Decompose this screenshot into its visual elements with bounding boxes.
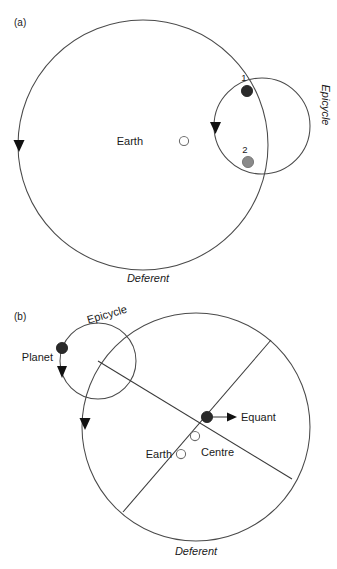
panel-b-equant-pointer-arrow bbox=[227, 413, 237, 422]
panel-b-earth-label: Earth bbox=[146, 448, 172, 460]
panel-a: (a) Earth 1 2 Epicycle Deferent bbox=[14, 17, 333, 284]
panel-b-deferent-label: Deferent bbox=[175, 545, 218, 557]
panel-b: (b) Planet Epicycle Equant bbox=[14, 303, 310, 557]
panel-b-earth-marker bbox=[176, 449, 185, 458]
panel-b-planet-marker bbox=[56, 342, 67, 353]
panel-a-epicycle-circle bbox=[214, 78, 310, 174]
panel-b-planet-label: Planet bbox=[22, 351, 53, 363]
panel-a-deferent-direction-arrow bbox=[14, 140, 25, 152]
panel-b-label: (b) bbox=[14, 311, 26, 322]
panel-a-label: (a) bbox=[14, 17, 26, 28]
panel-b-equant-label: Equant bbox=[241, 411, 276, 423]
panel-b-deferent-direction-arrow bbox=[80, 418, 91, 430]
panel-b-centre-label: Centre bbox=[201, 446, 234, 458]
panel-b-planet-direction-arrow bbox=[57, 366, 67, 378]
panel-a-position-2-marker bbox=[242, 156, 253, 167]
panel-a-deferent-label: Deferent bbox=[127, 272, 170, 284]
panel-a-epicycle-label: Epicycle bbox=[320, 85, 332, 126]
panel-a-position-1-marker bbox=[241, 85, 252, 96]
panel-a-earth-marker bbox=[179, 136, 188, 145]
epicycle-diagram: (a) Earth 1 2 Epicycle Deferent bbox=[0, 0, 337, 569]
panel-b-epicycle-label: Epicycle bbox=[86, 303, 129, 326]
panel-b-equant-marker bbox=[201, 411, 212, 422]
panel-b-apsidal-line bbox=[123, 340, 271, 512]
panel-b-centre-marker bbox=[190, 431, 199, 440]
figure-root: (a) Earth 1 2 Epicycle Deferent bbox=[0, 0, 337, 569]
panel-a-position-1-label: 1 bbox=[241, 72, 246, 83]
panel-a-deferent-circle bbox=[18, 20, 268, 270]
panel-a-position-2-label: 2 bbox=[242, 144, 247, 155]
panel-a-earth-label: Earth bbox=[117, 135, 143, 147]
panel-a-epicycle-direction-arrow bbox=[210, 122, 221, 134]
